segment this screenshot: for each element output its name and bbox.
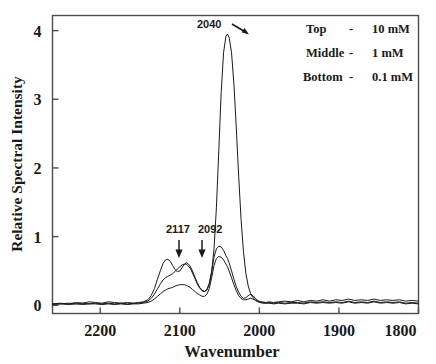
annotation-2092: 2092 (198, 223, 222, 258)
legend-row-middle-separator: - (349, 46, 353, 60)
annotation-2092-label: 2092 (198, 223, 222, 235)
legend-row-bottom: Bottom - 0.1 mM (303, 70, 413, 84)
spectrum-figure: 01234 22002100200019001800 Relative Spec… (0, 0, 436, 364)
annotation-2040-label: 2040 (197, 18, 221, 30)
x-tick-label: 2200 (84, 322, 116, 339)
y-axis-tick-marks (53, 31, 59, 306)
x-axis-tick-marks (100, 308, 418, 314)
annotation-2092-arrow-head (198, 250, 205, 259)
x-tick-label: 1800 (385, 322, 417, 339)
legend-row-top-position: Top (306, 22, 326, 36)
legend-row-bottom-value: 0.1 mM (372, 70, 413, 84)
legend-row-bottom-separator: - (349, 70, 353, 84)
annotation-2117-arrow-head (175, 250, 182, 259)
annotation-2040: 2040 (197, 18, 249, 35)
plot-frame (53, 16, 419, 314)
x-axis-tick-labels: 22002100200019001800 (84, 322, 416, 339)
y-axis-tick-labels: 01234 (34, 23, 42, 315)
legend-row-middle-value: 1 mM (372, 46, 404, 60)
legend: Top - 10 mM Middle - 1 mM Bottom - 0.1 m… (303, 22, 413, 84)
y-axis-title: Relative Spectral Intensity (8, 76, 25, 252)
legend-row-top: Top - 10 mM (306, 22, 410, 36)
legend-row-middle-position: Middle (306, 46, 345, 60)
y-tick-label: 4 (34, 23, 42, 40)
spectrum-trace-1 (53, 246, 419, 304)
legend-row-middle: Middle - 1 mM (306, 46, 404, 60)
legend-row-top-value: 10 mM (372, 22, 410, 36)
spectrum-traces (53, 34, 419, 305)
y-tick-label: 3 (34, 91, 42, 108)
spectrum-chart-canvas: 01234 22002100200019001800 Relative Spec… (0, 0, 436, 364)
annotation-2117: 2117 (166, 223, 190, 258)
spectrum-trace-2 (53, 257, 419, 305)
spectrum-trace-0 (53, 34, 419, 304)
x-tick-label: 2100 (164, 322, 196, 339)
legend-row-top-separator: - (349, 22, 353, 36)
x-tick-label: 1900 (323, 322, 355, 339)
x-axis-title: Wavenumber (184, 342, 279, 361)
y-tick-label: 0 (34, 297, 42, 314)
annotation-2117-label: 2117 (166, 223, 190, 235)
y-tick-label: 1 (34, 229, 42, 246)
annotation-2040-arrow-head (242, 28, 250, 34)
x-tick-label: 2000 (243, 322, 275, 339)
legend-row-bottom-position: Bottom (303, 70, 343, 84)
y-tick-label: 2 (34, 160, 42, 177)
